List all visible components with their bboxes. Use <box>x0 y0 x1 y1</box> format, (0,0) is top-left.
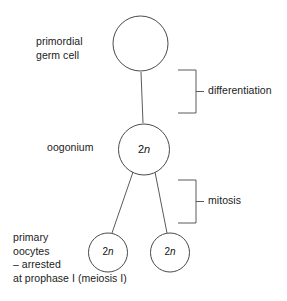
label-differentiation: differentiation <box>208 84 272 98</box>
connector-pgc-to-oogonium <box>141 72 143 123</box>
bracket-differentiation <box>178 70 204 113</box>
connector-oogonium-to-right-oocyte <box>155 172 167 233</box>
label-primary-oocytes: primary oocytes – arrested at prophase I… <box>13 231 127 285</box>
oogenesis-diagram: primordial germ cell oogonium primary oo… <box>0 0 287 301</box>
connector-oogonium-to-left-oocyte <box>112 172 133 233</box>
label-mitosis: mitosis <box>208 194 241 208</box>
label-oogonium: oogonium <box>47 141 94 155</box>
label-primordial-germ-cell: primordial germ cell <box>36 35 83 62</box>
ploidy-label-oogonium: 2n <box>118 143 170 155</box>
ploidy-label-primary-oocyte-right: 2n <box>150 246 190 257</box>
cell-primordial-germ-cell <box>113 16 168 71</box>
ploidy-label-primary-oocyte-left: 2n <box>88 246 128 257</box>
bracket-mitosis <box>178 180 204 223</box>
